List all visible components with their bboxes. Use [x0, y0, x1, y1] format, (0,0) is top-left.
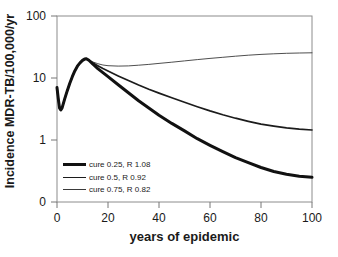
y-axis-title: Incidence MDR-TB/100,000/yr — [3, 1, 19, 201]
legend-label: cure 0.75, R 0.82 — [89, 184, 150, 195]
chart-canvas: Incidence MDR-TB/100,000/yr 100 10 1 0 0… — [0, 0, 338, 257]
y-tick-label: 10 — [14, 71, 46, 85]
legend-item: cure 0.5, R 0.92 — [63, 172, 146, 183]
legend-line-sample-medium — [63, 177, 86, 178]
x-tick-label: 80 — [246, 211, 276, 225]
x-tick-label: 0 — [42, 211, 72, 225]
x-tick-label: 60 — [195, 211, 225, 225]
series-line — [57, 59, 312, 130]
legend-label: cure 0.5, R 0.92 — [89, 172, 146, 183]
x-tick-label: 40 — [144, 211, 174, 225]
legend-line-sample-thin — [63, 189, 86, 190]
legend-item: cure 0.75, R 0.82 — [63, 184, 150, 195]
legend-label: cure 0.25, R 1.08 — [89, 159, 150, 170]
x-tick-label: 100 — [297, 211, 327, 225]
y-tick-label: 1 — [14, 133, 46, 147]
y-tick-label: 0 — [14, 195, 46, 209]
legend-line-sample-thick — [63, 163, 86, 166]
x-tick-label: 20 — [93, 211, 123, 225]
y-tick-label: 100 — [14, 9, 46, 23]
x-axis-title: years of epidemic — [104, 229, 265, 244]
legend-item: cure 0.25, R 1.08 — [63, 159, 150, 170]
